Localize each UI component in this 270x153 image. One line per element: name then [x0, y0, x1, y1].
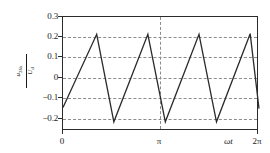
- y-tick-mark--0.2: [58, 118, 62, 119]
- x-tick-mark-2pi: [257, 130, 258, 134]
- y-tick-label-0.3: 0.3: [34, 12, 58, 21]
- y-tick-label--0.1: −0.1: [32, 93, 58, 102]
- y-tick-label-0.1: 0.1: [34, 52, 58, 61]
- y-tick-mark-0: [58, 77, 62, 78]
- x-tick-label-pi: π: [150, 137, 168, 146]
- y-tick-mark-0.2: [58, 36, 62, 37]
- y-tick-mark--0.1: [58, 97, 62, 98]
- waveform-line: [63, 17, 259, 131]
- y-tick-label--0.2: −0.2: [32, 114, 58, 123]
- x-tick-label-2pi: 2π: [247, 137, 267, 146]
- x-tick-mark-0: [62, 130, 63, 134]
- plot-area: [62, 16, 258, 130]
- y-tick-label-0.2: 0.2: [34, 32, 58, 41]
- y-tick-mark-0.3: [58, 16, 62, 17]
- chart-figure: u2δk Ud 0.3 0.2 0.1 0 −0.1 −0.2 0 π 2π: [0, 0, 270, 153]
- x-axis-label: ωt: [224, 137, 233, 146]
- x-tick-label-0: 0: [53, 137, 71, 146]
- y-axis-label-numerator: u2δk: [15, 65, 25, 78]
- y-tick-label-0: 0: [34, 73, 58, 82]
- y-tick-mark-0.1: [58, 56, 62, 57]
